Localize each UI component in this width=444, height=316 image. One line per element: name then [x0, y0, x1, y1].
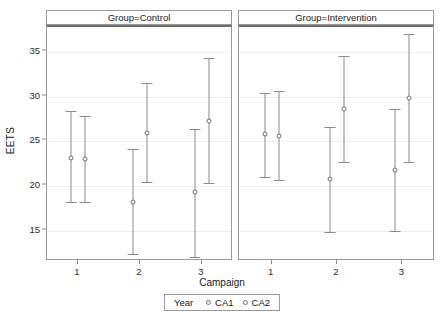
x-tick-label: 3 — [399, 266, 404, 277]
circle-marker-icon — [243, 300, 248, 305]
data-point-ca2[interactable] — [342, 107, 347, 112]
gridline — [47, 97, 231, 98]
gridline — [47, 231, 231, 232]
y-tick-label: 20 — [14, 179, 40, 190]
error-bar-cap-upper — [142, 83, 153, 84]
x-tick-label: 1 — [74, 266, 79, 277]
circle-marker-icon — [206, 300, 211, 305]
data-point-ca1[interactable] — [69, 156, 74, 161]
error-bar-cap-lower — [339, 162, 350, 163]
error-bar-cap-upper — [404, 34, 415, 35]
x-tick-mark — [271, 260, 272, 264]
error-bar-cap-lower — [390, 231, 401, 232]
error-bar-cap-upper — [339, 56, 350, 57]
x-tick-label: 2 — [136, 266, 141, 277]
gridline — [47, 186, 231, 187]
legend-label-ca1: CA1 — [215, 297, 233, 308]
panel-intervention: Group=Intervention — [238, 10, 434, 260]
error-bar-cap-upper — [66, 111, 77, 112]
gridline — [239, 141, 433, 142]
y-tick-label: 15 — [14, 223, 40, 234]
error-bar-cap-lower — [190, 257, 201, 258]
error-bar-cap-upper — [204, 58, 215, 59]
data-point-ca2[interactable] — [207, 118, 212, 123]
data-point-ca2[interactable] — [83, 157, 88, 162]
gridline — [47, 141, 231, 142]
gridline — [239, 97, 433, 98]
legend-title: Year — [174, 297, 193, 308]
error-bar-cap-lower — [325, 232, 336, 233]
data-point-ca2[interactable] — [276, 134, 281, 139]
x-axis-label: Campaign — [0, 277, 444, 288]
error-bar-cap-upper — [190, 129, 201, 130]
x-tick-mark — [139, 260, 140, 264]
error-bar-cap-lower — [259, 177, 270, 178]
x-tick-mark — [77, 260, 78, 264]
error-bar-cap-lower — [128, 254, 139, 255]
error-bar-cap-upper — [325, 127, 336, 128]
error-bar-cap-lower — [204, 183, 215, 184]
y-tick-label: 35 — [14, 45, 40, 56]
error-bar-cap-upper — [128, 149, 139, 150]
legend: Year CA1 CA2 — [164, 294, 280, 311]
x-tick-label: 1 — [268, 266, 273, 277]
x-tick-label: 3 — [198, 266, 203, 277]
data-point-ca2[interactable] — [145, 131, 150, 136]
x-tick-mark — [201, 260, 202, 264]
error-bar-cap-lower — [404, 162, 415, 163]
legend-entry-ca2[interactable]: CA2 — [243, 297, 270, 308]
data-point-ca1[interactable] — [131, 200, 136, 205]
legend-entry-ca1[interactable]: CA1 — [206, 297, 233, 308]
plot-area-control — [46, 25, 232, 260]
x-tick-mark — [336, 260, 337, 264]
x-tick-label: 2 — [333, 266, 338, 277]
plot-area-intervention — [238, 25, 434, 260]
panel-header-control: Group=Control — [46, 10, 232, 25]
error-bar-cap-lower — [66, 202, 77, 203]
data-point-ca1[interactable] — [328, 176, 333, 181]
error-bar-cap-upper — [80, 116, 91, 117]
data-point-ca1[interactable] — [393, 167, 398, 172]
error-bar-cap-lower — [273, 180, 284, 181]
gridline — [239, 52, 433, 53]
error-bar-cap-lower — [142, 182, 153, 183]
y-tick-label: 30 — [14, 89, 40, 100]
eets-campaign-chart: EETS 1520253035 Group=Control Group=Inte… — [0, 0, 444, 316]
panel-header-intervention: Group=Intervention — [238, 10, 434, 25]
data-point-ca1[interactable] — [193, 190, 198, 195]
error-bar-cap-upper — [259, 93, 270, 94]
error-bar-cap-lower — [80, 202, 91, 203]
gridline — [239, 231, 433, 232]
data-point-ca1[interactable] — [262, 132, 267, 137]
gridline — [239, 186, 433, 187]
legend-label-ca2: CA2 — [252, 297, 270, 308]
x-tick-mark — [401, 260, 402, 264]
error-bar-cap-upper — [390, 109, 401, 110]
panel-control: Group=Control — [46, 10, 232, 260]
gridline — [47, 52, 231, 53]
data-point-ca2[interactable] — [407, 95, 412, 100]
error-bar-cap-upper — [273, 91, 284, 92]
y-tick-label: 25 — [14, 134, 40, 145]
